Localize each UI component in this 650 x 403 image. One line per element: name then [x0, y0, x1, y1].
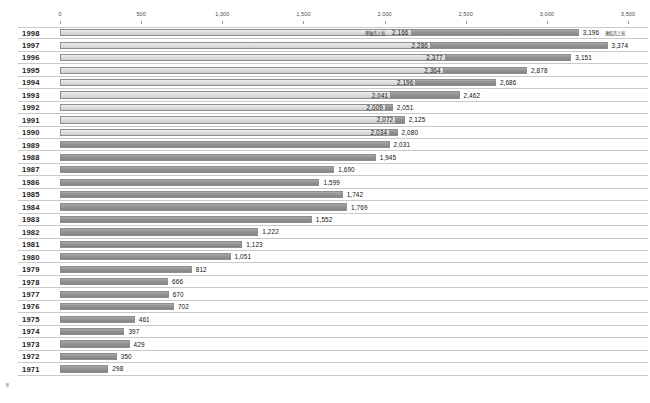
bar-1978: [60, 278, 168, 285]
bar-1976: [60, 303, 174, 310]
bar-value-standalone-1981: 1,123: [246, 241, 263, 248]
axis-tick-label: 0: [58, 11, 61, 17]
bar-standalone-1992: [60, 104, 386, 111]
bar-value-standalone-1978: 666: [172, 278, 183, 285]
category-label-1974: 1974: [22, 327, 40, 336]
bar-1986: [60, 179, 319, 186]
chart-row: 1975461: [0, 313, 650, 325]
bar-value-consolidated-1991: 2,125: [409, 116, 426, 123]
category-label-1975: 1975: [22, 315, 40, 324]
chart-row: 1973429: [0, 338, 650, 350]
bar-value-consolidated-1992: 2,051: [397, 104, 414, 111]
category-label-1977: 1977: [22, 290, 40, 299]
bar-value-standalone-1996: 2,377: [426, 54, 443, 61]
category-label-1989: 1989: [22, 141, 40, 150]
category-label-1992: 1992: [22, 103, 40, 112]
axis-tick-label: 3,500: [621, 11, 635, 17]
chart-row: 19912,1252,072: [0, 114, 650, 126]
bar-1977: [60, 291, 169, 298]
axis-tick-mark: [303, 21, 304, 24]
bar-1989: [60, 141, 390, 148]
category-label-1980: 1980: [22, 253, 40, 262]
category-label-1985: 1985: [22, 190, 40, 199]
axis-tick-label: 1,500: [296, 11, 310, 17]
category-label-1979: 1979: [22, 265, 40, 274]
category-label-1991: 1991: [22, 116, 40, 125]
legend-consolidated: 連結売上高: [605, 30, 626, 36]
category-label-1982: 1982: [22, 228, 40, 237]
category-label-1996: 1996: [22, 53, 40, 62]
bar-value-standalone-1972: 350: [121, 353, 132, 360]
bar-value-standalone-1984: 1,769: [351, 204, 368, 211]
chart-row: 19851,742: [0, 189, 650, 201]
bar-value-standalone-1986: 1,599: [323, 179, 340, 186]
bar-1980: [60, 253, 231, 260]
chart-row: 19861,599: [0, 176, 650, 188]
chart-row: 1974397: [0, 326, 650, 338]
bar-value-standalone-1983: 1,552: [316, 216, 333, 223]
category-label-1987: 1987: [22, 165, 40, 174]
bar-1974: [60, 328, 124, 335]
chart-row: 19892,031: [0, 139, 650, 151]
bar-value-consolidated-1993: 2,462: [464, 92, 481, 99]
bar-1981: [60, 241, 242, 248]
chart-row: 19902,0802,034: [0, 127, 650, 139]
row-divider: [18, 375, 648, 376]
chart-row: 19932,4622,041: [0, 89, 650, 101]
category-label-1998: 1998: [22, 29, 40, 38]
bar-1982: [60, 228, 258, 235]
bar-value-consolidated-1996: 3,151: [575, 54, 592, 61]
bar-standalone-1991: [60, 116, 396, 123]
axis-tick-label: 1,000: [215, 11, 229, 17]
bar-value-consolidated-1994: 2,686: [500, 79, 517, 86]
bar-value-consolidated-1997: 3,374: [612, 42, 629, 49]
chart-row: 1978666: [0, 276, 650, 288]
bar-value-standalone-1995: 2,364: [424, 67, 441, 74]
bar-value-consolidated-1990: 2,080: [402, 129, 419, 136]
bar-value-consolidated-1995: 2,878: [531, 67, 548, 74]
category-label-1994: 1994: [22, 78, 40, 87]
category-label-1988: 1988: [22, 153, 40, 162]
bar-value-standalone-1992: 2,009: [367, 104, 384, 111]
category-label-1972: 1972: [22, 352, 40, 361]
chart-row: 1977670: [0, 288, 650, 300]
chart-row: 1971298: [0, 363, 650, 375]
axis-tick-mark: [385, 21, 386, 24]
category-label-1990: 1990: [22, 128, 40, 137]
category-label-1973: 1973: [22, 340, 40, 349]
bar-value-standalone-1977: 670: [173, 291, 184, 298]
axis-tick-mark: [60, 21, 61, 24]
bar-value-consolidated-1998: 3,196: [583, 29, 600, 36]
bar-value-standalone-1980: 1,051: [235, 253, 252, 260]
bar-1972: [60, 353, 117, 360]
chart-row: 19871,690: [0, 164, 650, 176]
legend-standalone: 単独売上高: [365, 30, 386, 36]
bar-value-standalone-1982: 1,222: [262, 228, 279, 235]
bar-value-standalone-1976: 702: [178, 303, 189, 310]
bar-value-standalone-1997: 2,286: [411, 42, 428, 49]
bar-standalone-1994: [60, 79, 416, 86]
bar-value-standalone-1975: 461: [139, 316, 150, 323]
row-divider: [18, 27, 648, 28]
category-label-1993: 1993: [22, 91, 40, 100]
axis-tick-label: 3,000: [540, 11, 554, 17]
chart-row: 19942,6862,196: [0, 77, 650, 89]
bar-value-standalone-1974: 397: [128, 328, 139, 335]
category-label-1986: 1986: [22, 178, 40, 187]
category-label-1997: 1997: [22, 41, 40, 50]
bar-value-standalone-1971: 298: [112, 365, 123, 372]
bar-1971: [60, 365, 108, 372]
bar-standalone-1993: [60, 91, 391, 98]
bar-value-standalone-1993: 2,041: [372, 92, 389, 99]
bar-standalone-1997: [60, 42, 431, 49]
bar-standalone-1996: [60, 54, 446, 61]
bar-value-standalone-1994: 2,196: [397, 79, 414, 86]
axis-tick-label: 2,000: [377, 11, 391, 17]
bar-1975: [60, 316, 135, 323]
bar-chart: 05001,0001,5002,0002,5003,0003,500 19983…: [0, 0, 650, 403]
chart-row: 19952,8782,364: [0, 64, 650, 76]
axis-tick-mark: [222, 21, 223, 24]
bar-value-standalone-1990: 2,034: [371, 129, 388, 136]
x-axis: 05001,0001,5002,0002,5003,0003,500: [0, 0, 650, 28]
chart-row: 19841,769: [0, 201, 650, 213]
